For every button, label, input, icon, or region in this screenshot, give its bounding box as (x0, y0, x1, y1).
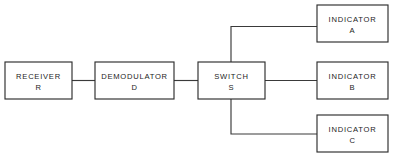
block-demodulator[interactable]: DEMODULATOR D (95, 62, 174, 99)
signal-chain-diagram: RECEIVER R DEMODULATOR D SWITCH S INDICA… (0, 0, 394, 160)
block-switch-sublabel: S (229, 83, 235, 92)
block-indicator-a-sublabel: A (350, 26, 356, 35)
block-receiver[interactable]: RECEIVER R (5, 62, 72, 99)
block-indicator-b-label: INDICATOR (329, 72, 377, 81)
block-diagram-canvas: RECEIVER R DEMODULATOR D SWITCH S INDICA… (0, 0, 394, 160)
block-indicator-a-label: INDICATOR (329, 15, 377, 24)
block-indicator-c-sublabel: C (349, 136, 355, 145)
block-demodulator-sublabel: D (131, 83, 137, 92)
block-indicator-a[interactable]: INDICATOR A (317, 5, 388, 42)
block-indicator-c-label: INDICATOR (329, 125, 377, 134)
block-indicator-c[interactable]: INDICATOR C (317, 115, 388, 152)
block-switch[interactable]: SWITCH S (198, 62, 265, 99)
block-receiver-sublabel: R (35, 83, 41, 92)
connector-switch-to-indicator-a (231, 27, 317, 63)
block-indicator-b[interactable]: INDICATOR B (317, 62, 388, 99)
connector-switch-to-indicator-c (231, 99, 317, 134)
block-indicator-b-sublabel: B (350, 83, 356, 92)
block-demodulator-label: DEMODULATOR (101, 72, 168, 81)
block-receiver-label: RECEIVER (16, 72, 61, 81)
block-switch-label: SWITCH (214, 72, 248, 81)
